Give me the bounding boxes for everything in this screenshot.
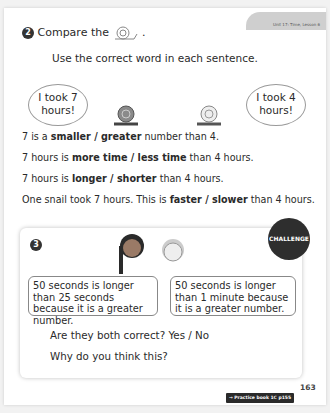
instruction: Use the correct word in each sentence. — [52, 52, 258, 64]
snail-icon — [112, 26, 138, 40]
question-3-box: 3 50 seconds is longer than 25 seconds b… — [20, 228, 302, 378]
snail-light-icon — [193, 104, 225, 126]
choice-4: faster / slower — [170, 194, 248, 205]
question-3-followup: Why do you think this? — [50, 350, 168, 362]
speech-bubble-right: I took 4 hours! — [246, 84, 306, 126]
question-number: 2 — [22, 27, 34, 39]
unit-header-tab: Unit 17: Time, Lesson 6 — [246, 12, 326, 30]
sentence-1: 7 is a smaller / greater number than 4. — [22, 131, 219, 142]
speech-left: 50 seconds is longer than 25 seconds bec… — [28, 276, 158, 316]
girl-avatar-icon — [115, 232, 149, 276]
prompt-end: . — [142, 26, 146, 39]
snail-dark-icon — [110, 104, 142, 126]
sentence-4: One snail took 7 hours. This is faster /… — [22, 194, 315, 205]
prompt-text: Compare the — [38, 26, 109, 39]
practice-book-link[interactable]: → Practice book 1C p155 — [226, 393, 294, 403]
challenge-badge: CHALLENGE — [268, 218, 310, 260]
sentence-2: 7 hours is more time / less time than 4 … — [22, 152, 254, 163]
speech-right: 50 seconds is longer than 1 minute becau… — [170, 276, 296, 316]
choice-2: more time / less time — [72, 152, 187, 163]
speech-bubble-left: I took 7 hours! — [28, 84, 88, 126]
question-2-prompt: 2 Compare the . — [22, 26, 145, 40]
question-3-question: Are they both correct? Yes / No — [50, 329, 209, 341]
sentence-3: 7 hours is longer / shorter than 4 hours… — [22, 173, 224, 184]
question-number: 3 — [30, 239, 42, 251]
page-number: 163 — [300, 383, 316, 392]
boy-avatar-icon — [160, 236, 186, 268]
choice-1: smaller / greater — [51, 131, 142, 142]
choice-3: longer / shorter — [72, 173, 157, 184]
